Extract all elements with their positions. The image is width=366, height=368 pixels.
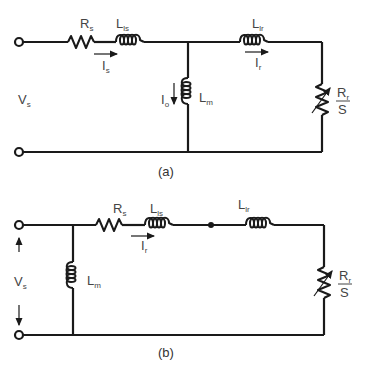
label-slip-a: S bbox=[338, 102, 347, 117]
terminal-bottom-a bbox=[15, 148, 23, 156]
label-vs-a: Vs bbox=[18, 92, 31, 109]
label-rs-a: Rs bbox=[80, 16, 93, 33]
label-lm-a: Lm bbox=[199, 90, 213, 107]
label-vs-b: Vs bbox=[14, 274, 27, 291]
label-slip-b: S bbox=[340, 285, 349, 300]
inductor-lm-b bbox=[67, 262, 76, 288]
inductor-lm-a bbox=[182, 78, 191, 104]
label-rs-b: Rs bbox=[113, 201, 126, 218]
label-is-a: Is bbox=[102, 58, 110, 75]
terminal-top-a bbox=[15, 38, 23, 46]
label-ir-a: Ir bbox=[255, 55, 262, 72]
resistor-rs-b bbox=[96, 219, 122, 231]
label-lls-a: Lls bbox=[116, 16, 129, 33]
label-rr-b: Rr bbox=[339, 268, 351, 285]
inductor-lls-a bbox=[116, 35, 144, 45]
circuit-a: Rs Lls Is Llr Ir Io Lm Vs Rr S (a) bbox=[15, 16, 350, 179]
caption-b: (b) bbox=[158, 345, 174, 360]
terminal-top-b bbox=[15, 221, 23, 229]
junction-dot bbox=[208, 222, 214, 228]
label-io-a: Io bbox=[161, 92, 170, 109]
inductor-llr-b bbox=[246, 218, 274, 228]
label-lm-b: Lm bbox=[87, 273, 101, 290]
label-llr-a: Llr bbox=[252, 16, 264, 33]
resistor-rs-a bbox=[68, 36, 94, 48]
circuit-b: Rs Lls Ir Llr Lm Vs Rr S (b) bbox=[14, 197, 352, 360]
terminal-bottom-b bbox=[15, 331, 23, 339]
inductor-llr-a bbox=[240, 35, 268, 45]
inductor-lls-b bbox=[145, 218, 173, 228]
label-lls-b: Lls bbox=[150, 201, 163, 218]
label-ir-b: Ir bbox=[141, 238, 148, 255]
label-llr-b: Llr bbox=[238, 197, 250, 214]
equivalent-circuit-diagram: Rs Lls Is Llr Ir Io Lm Vs Rr S (a) bbox=[0, 0, 366, 368]
label-rr-a: Rr bbox=[337, 85, 349, 102]
caption-a: (a) bbox=[158, 164, 174, 179]
